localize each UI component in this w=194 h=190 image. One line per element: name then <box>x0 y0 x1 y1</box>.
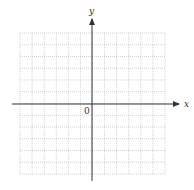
origin-label: 0 <box>84 106 90 116</box>
x-axis-label: x <box>184 99 189 109</box>
y-axis-label: y <box>88 6 95 16</box>
coordinate-plane: x y 0 <box>0 0 194 190</box>
